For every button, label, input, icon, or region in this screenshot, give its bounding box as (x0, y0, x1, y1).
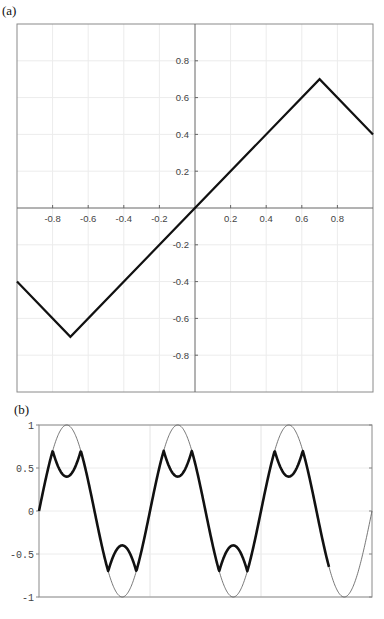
y-tick-label: -1 (22, 593, 34, 604)
y-tick-label: 1 (28, 421, 34, 432)
chart-b: 10.50-0.5-1 (0, 0, 384, 619)
y-tick-label: -0.5 (10, 550, 34, 561)
y-tick-label: 0 (28, 507, 34, 518)
y-tick-label: 0.5 (16, 464, 34, 475)
